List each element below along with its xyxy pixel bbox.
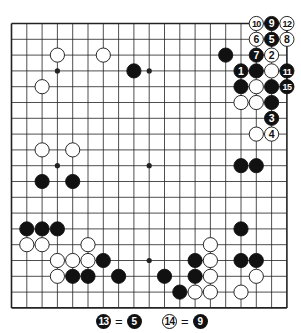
svg-text:10: 10 — [252, 19, 261, 29]
black-stone — [234, 80, 248, 94]
white-stone — [20, 238, 34, 252]
black-stone — [157, 269, 171, 283]
white-stone — [203, 253, 217, 267]
white-stone — [188, 285, 202, 299]
go-board: 10912658721111534 — [0, 0, 301, 333]
white-stone — [35, 143, 49, 157]
black-stone-1: 1 — [234, 64, 248, 78]
equals-sign: = — [181, 314, 189, 329]
svg-text:11: 11 — [283, 67, 292, 77]
stones: 10912658721111534 — [20, 16, 294, 299]
black-stone — [50, 222, 64, 236]
white-stone-4: 4 — [265, 127, 279, 141]
white-stone — [66, 143, 80, 157]
svg-text:8: 8 — [284, 33, 290, 45]
svg-text:6: 6 — [253, 33, 259, 45]
black-stone — [249, 64, 263, 78]
black-stone — [96, 253, 110, 267]
star-point — [147, 68, 152, 73]
move-9-black-stone-icon: 9 — [193, 314, 208, 329]
black-stone — [249, 253, 263, 267]
star-point — [55, 68, 60, 73]
white-stone — [50, 253, 64, 267]
star-point — [147, 258, 152, 263]
white-stone — [50, 48, 64, 62]
white-stone-10: 10 — [249, 16, 263, 30]
black-stone — [35, 174, 49, 188]
black-stone — [20, 222, 34, 236]
white-stone — [234, 95, 248, 109]
white-stone — [96, 48, 110, 62]
black-stone-15: 15 — [280, 80, 294, 94]
black-stone — [66, 269, 80, 283]
black-stone-9: 9 — [265, 16, 279, 30]
white-stone — [35, 80, 49, 94]
black-stone — [265, 95, 279, 109]
svg-text:15: 15 — [282, 82, 291, 92]
black-stone — [234, 222, 248, 236]
black-stone — [66, 174, 80, 188]
white-stone — [249, 80, 263, 94]
caption-note-1: 13 = 5 — [96, 312, 142, 330]
black-stone — [112, 269, 126, 283]
svg-text:2: 2 — [269, 49, 275, 61]
black-stone — [234, 253, 248, 267]
black-stone — [249, 159, 263, 173]
black-stone — [35, 222, 49, 236]
svg-text:7: 7 — [253, 49, 259, 61]
move-13-black-stone-icon: 13 — [96, 314, 111, 329]
caption-note-2: 14 = 9 — [162, 312, 208, 330]
black-stone — [173, 285, 187, 299]
svg-text:3: 3 — [269, 112, 275, 124]
white-stone-2: 2 — [265, 48, 279, 62]
svg-text:4: 4 — [269, 128, 275, 140]
black-stone — [234, 159, 248, 173]
black-stone — [219, 48, 233, 62]
white-stone — [203, 238, 217, 252]
equals-sign: = — [115, 314, 123, 329]
black-stone-3: 3 — [265, 111, 279, 125]
white-stone — [81, 253, 95, 267]
white-stone — [249, 95, 263, 109]
white-stone-8: 8 — [280, 32, 294, 46]
move-14-white-stone-icon: 14 — [162, 314, 177, 329]
svg-text:9: 9 — [269, 17, 275, 29]
white-stone-12: 12 — [280, 16, 294, 30]
white-stone — [265, 64, 279, 78]
svg-text:5: 5 — [269, 33, 275, 45]
black-stone — [265, 80, 279, 94]
move-5-black-stone-icon: 5 — [127, 314, 142, 329]
svg-text:1: 1 — [238, 65, 244, 77]
black-stone — [127, 64, 141, 78]
black-stone-5: 5 — [265, 32, 279, 46]
black-stone — [188, 269, 202, 283]
svg-text:12: 12 — [282, 19, 291, 29]
white-stone — [234, 285, 248, 299]
white-stone — [203, 269, 217, 283]
white-stone-6: 6 — [249, 32, 263, 46]
black-stone-11: 11 — [280, 64, 294, 78]
white-stone — [50, 269, 64, 283]
black-stone — [81, 269, 95, 283]
white-stone — [35, 238, 49, 252]
white-stone — [249, 269, 263, 283]
white-stone — [81, 238, 95, 252]
white-stone — [66, 253, 80, 267]
black-stone — [188, 253, 202, 267]
star-point — [55, 163, 60, 168]
black-stone-7: 7 — [249, 48, 263, 62]
star-point — [147, 163, 152, 168]
white-stone — [203, 285, 217, 299]
white-stone — [249, 127, 263, 141]
